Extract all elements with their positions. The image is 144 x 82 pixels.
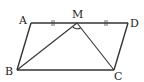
label-a: A xyxy=(18,14,28,27)
label-d: D xyxy=(130,17,139,30)
segment-dc xyxy=(114,23,128,70)
geometry-diagram: A M D B C xyxy=(0,0,144,82)
segment-mb xyxy=(17,23,77,70)
label-m: M xyxy=(72,8,83,21)
label-c: C xyxy=(114,70,122,82)
segment-ab xyxy=(17,23,31,70)
label-b: B xyxy=(5,65,13,78)
segment-mc xyxy=(77,23,114,70)
